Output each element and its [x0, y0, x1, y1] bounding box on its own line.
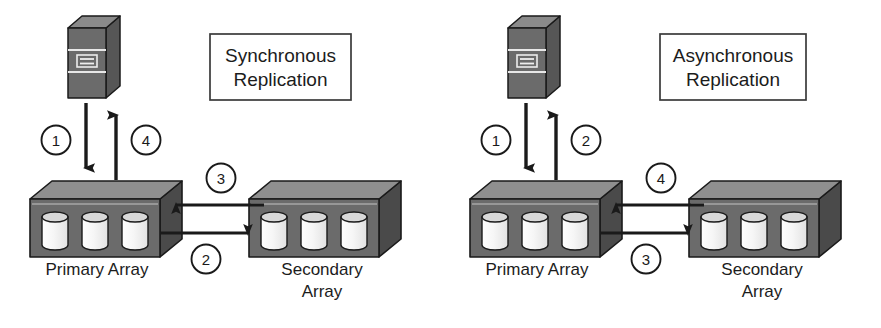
primary-array-caption: Primary Array — [46, 260, 149, 279]
title-box-border — [210, 34, 351, 100]
step-badge-number: 2 — [202, 251, 210, 268]
step-badge-1: 1 — [482, 126, 511, 155]
step-badge-number: 1 — [52, 132, 60, 149]
primary-array — [470, 181, 622, 257]
secondary-array-caption-line-1: Secondary — [721, 260, 803, 279]
title-line-2: Replication — [234, 69, 328, 90]
primary-array-caption: Primary Array — [486, 260, 589, 279]
replication-diagram-svg: Synchronous Replication 1 4 — [0, 0, 881, 328]
title-line-1: Synchronous — [225, 45, 336, 66]
title-box-asynchronous: Asynchronous Replication — [660, 34, 806, 100]
title-line-1: Asynchronous — [673, 45, 793, 66]
step-badge-2: 2 — [192, 245, 221, 274]
secondary-array-caption-line-2: Array — [742, 282, 783, 301]
step-badge-number: 3 — [217, 170, 225, 187]
secondary-array-caption-line-1: Secondary — [281, 260, 363, 279]
step-badge-1: 1 — [42, 126, 71, 155]
primary-array — [30, 181, 182, 257]
title-box-synchronous: Synchronous Replication — [210, 34, 351, 100]
step-badge-3: 3 — [207, 164, 236, 193]
step-badge-3: 3 — [632, 245, 661, 274]
step-badge-number: 4 — [142, 132, 150, 149]
diagram-canvas: Synchronous Replication 1 4 — [0, 0, 881, 328]
host-server — [508, 16, 560, 98]
step-badge-2: 2 — [572, 126, 601, 155]
step-badge-4: 4 — [647, 164, 676, 193]
step-badge-number: 4 — [657, 170, 665, 187]
host-server — [68, 16, 120, 98]
title-line-2: Replication — [686, 69, 780, 90]
step-badge-number: 2 — [582, 132, 590, 149]
title-box-border — [660, 34, 806, 100]
step-badge-number: 3 — [642, 251, 650, 268]
secondary-array — [689, 181, 841, 257]
step-badge-number: 1 — [492, 132, 500, 149]
secondary-array — [249, 181, 401, 257]
step-badge-4: 4 — [132, 126, 161, 155]
secondary-array-caption-line-2: Array — [302, 282, 343, 301]
